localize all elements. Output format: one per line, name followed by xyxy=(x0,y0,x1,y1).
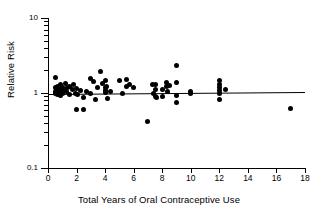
x-axis-tick-label: 2 xyxy=(67,174,87,183)
y-axis-minor-tick xyxy=(44,100,48,101)
x-axis-tick-label: 16 xyxy=(266,174,286,183)
x-axis-title: Total Years of Oral Contraceptive Use xyxy=(0,194,318,205)
y-axis-tick xyxy=(41,18,48,19)
data-point xyxy=(223,87,228,92)
y-axis-minor-tick xyxy=(44,105,48,106)
x-axis-tick-label: 8 xyxy=(152,174,172,183)
x-axis-tick-label: 6 xyxy=(124,174,144,183)
x-axis-tick-label: 18 xyxy=(295,174,315,183)
y-axis-minor-tick xyxy=(44,25,48,26)
y-axis-tick xyxy=(41,168,48,169)
data-point xyxy=(217,97,222,102)
scatter-plot-figure: 0.1110 024681012141618 Relative Risk Tot… xyxy=(0,0,318,218)
x-axis-tick-label: 0 xyxy=(38,174,58,183)
data-point xyxy=(167,83,172,88)
y-axis-minor-tick xyxy=(44,132,48,133)
y-axis-minor-tick xyxy=(44,116,48,117)
data-point xyxy=(53,75,58,80)
x-axis-tick-label: 12 xyxy=(209,174,229,183)
data-point xyxy=(117,78,122,83)
data-point xyxy=(160,94,165,99)
y-axis-title: Relative Risk xyxy=(5,27,16,113)
data-point xyxy=(174,80,179,85)
y-axis-minor-tick xyxy=(44,96,48,97)
y-axis-minor-tick xyxy=(44,48,48,49)
y-axis-minor-tick xyxy=(44,30,48,31)
x-axis-tick-label: 10 xyxy=(181,174,201,183)
x-axis-line xyxy=(48,168,305,169)
y-axis-tick-label: 0.1 xyxy=(14,164,38,172)
data-point xyxy=(93,97,98,102)
data-point xyxy=(153,82,158,87)
y-axis-minor-tick xyxy=(44,57,48,58)
x-axis-tick-label: 14 xyxy=(238,174,258,183)
y-axis-tick xyxy=(41,93,48,94)
y-axis-tick-label: 1 xyxy=(14,89,38,97)
y-axis-minor-tick xyxy=(44,21,48,22)
data-point xyxy=(81,95,86,100)
y-axis-minor-tick xyxy=(44,70,48,71)
y-axis-minor-tick xyxy=(44,35,48,36)
y-axis-minor-tick xyxy=(44,145,48,146)
y-axis-minor-tick xyxy=(44,110,48,111)
y-axis-tick-label: 10 xyxy=(14,14,38,22)
x-axis-tick-label: 4 xyxy=(95,174,115,183)
data-point xyxy=(154,95,159,100)
y-axis-minor-tick xyxy=(44,123,48,124)
y-axis-minor-tick xyxy=(44,41,48,42)
data-point xyxy=(174,100,179,105)
